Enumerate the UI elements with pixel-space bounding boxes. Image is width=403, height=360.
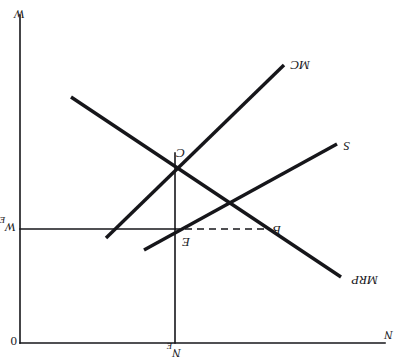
- label-w-bottom: W: [14, 8, 25, 21]
- label-mc-curve: MC: [291, 59, 311, 72]
- label-point-b: B: [273, 224, 281, 237]
- label-point-e: E: [182, 236, 190, 249]
- label-w-e: WE: [0, 217, 16, 234]
- supply-curve: [144, 144, 337, 250]
- label-w-e-sub: E: [0, 215, 5, 225]
- label-origin: 0: [11, 335, 18, 348]
- diagram-svg: [0, 0, 403, 360]
- rotated-diagram-canvas: N NE 0 WE W MRP S MC B E C: [0, 0, 403, 360]
- label-n-e: NE: [167, 343, 181, 360]
- label-point-c: C: [176, 147, 185, 160]
- mc-curve: [106, 65, 284, 238]
- label-mrp-curve: MRP: [351, 274, 378, 287]
- figure-root: N NE 0 WE W MRP S MC B E C: [0, 0, 403, 360]
- label-n-e-main: N: [172, 346, 181, 360]
- label-n-left: N: [384, 329, 393, 342]
- label-w-e-main: W: [5, 220, 16, 235]
- label-n-e-sub: E: [167, 341, 173, 351]
- label-supply-curve: S: [344, 140, 351, 153]
- mrp-curve: [71, 97, 341, 277]
